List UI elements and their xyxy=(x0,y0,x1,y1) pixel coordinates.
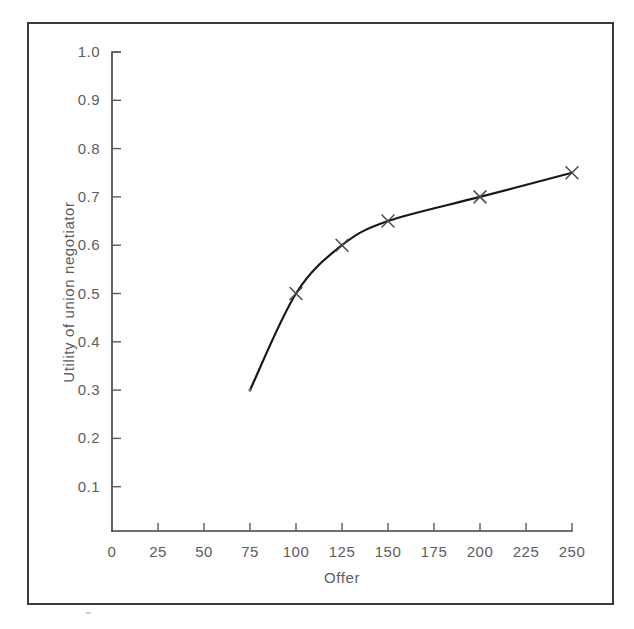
x-tick-label: 125 xyxy=(329,543,356,560)
x-tick-label: 75 xyxy=(241,543,259,560)
y-tick-label: 0.4 xyxy=(78,333,100,350)
data-point-marker xyxy=(248,389,251,392)
x-tick-label: 150 xyxy=(375,543,402,560)
x-tick-label: 200 xyxy=(467,543,494,560)
axes-group xyxy=(112,52,572,531)
data-point-marker xyxy=(382,215,394,227)
figure-root: 0.10.20.30.40.50.60.70.80.91.0 025507510… xyxy=(0,0,634,629)
y-tick-label: 0.6 xyxy=(78,236,100,253)
x-tick-label: 100 xyxy=(283,543,310,560)
y-tick-label: 0.7 xyxy=(78,188,100,205)
data-series-line xyxy=(250,173,572,390)
y-tick-label: 0.1 xyxy=(78,478,100,495)
data-point-markers xyxy=(248,167,578,392)
x-tick-group: 0255075100125150175200225250 xyxy=(108,523,586,560)
x-tick-label: 25 xyxy=(149,543,167,560)
x-axis-title: Offer xyxy=(324,569,360,586)
y-tick-label: 0.9 xyxy=(78,91,100,108)
chart-canvas: 0.10.20.30.40.50.60.70.80.91.0 025507510… xyxy=(0,0,634,629)
y-tick-label: 0.8 xyxy=(78,140,100,157)
data-point-marker xyxy=(290,288,302,300)
y-tick-label: 0.2 xyxy=(78,429,100,446)
x-tick-label: 225 xyxy=(513,543,540,560)
y-tick-label: 0.5 xyxy=(78,285,100,302)
x-tick-label: 50 xyxy=(195,543,213,560)
y-tick-group: 0.10.20.30.40.50.60.70.80.91.0 xyxy=(78,43,121,495)
y-axis-title: Utility of union negotiator xyxy=(60,201,77,382)
y-tick-label: 1.0 xyxy=(78,43,100,60)
x-tick-label: 250 xyxy=(559,543,586,560)
data-point-marker xyxy=(336,239,348,251)
x-tick-label: 0 xyxy=(108,543,117,560)
x-tick-label: 175 xyxy=(421,543,448,560)
y-tick-label: 0.3 xyxy=(78,381,100,398)
